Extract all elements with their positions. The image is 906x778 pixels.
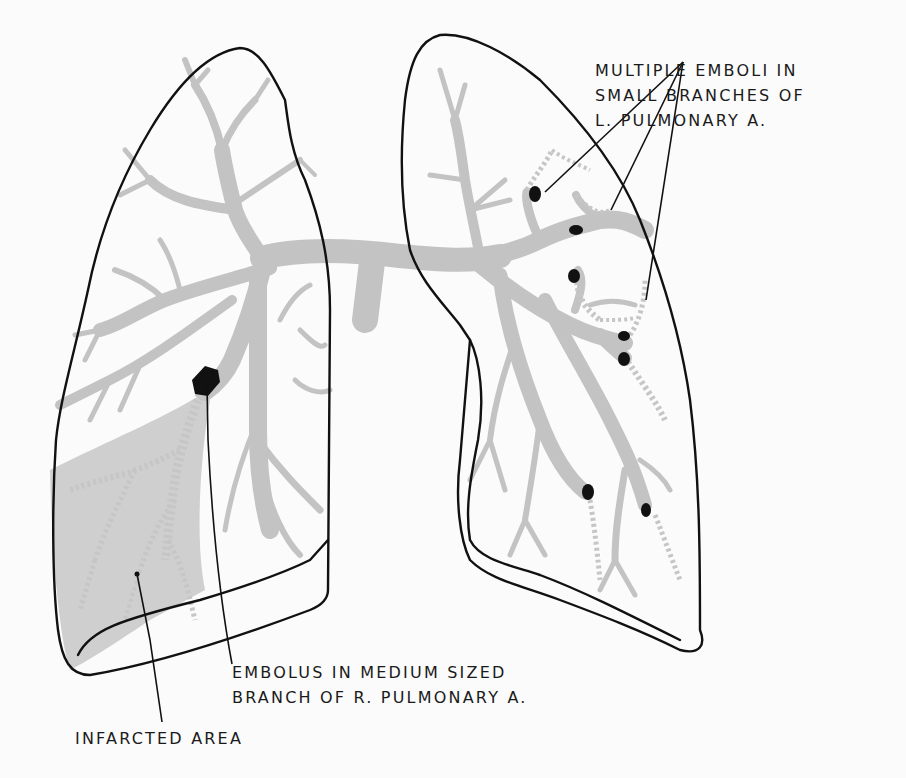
embolus-small-4 <box>618 331 630 341</box>
embolus-small-7 <box>641 503 651 517</box>
label-infarcted-area: INFARCTED AREA <box>75 726 243 751</box>
label-multiple-emboli: MULTIPLE EMBOLI IN SMALL BRANCHES OF L. … <box>595 58 805 133</box>
pulmonary-embolism-diagram: MULTIPLE EMBOLI IN SMALL BRANCHES OF L. … <box>0 0 906 778</box>
embolus-small-3 <box>568 269 580 283</box>
embolus-small-5 <box>618 352 630 366</box>
embolus-small-6 <box>582 484 594 500</box>
label-embolus-medium-branch: EMBOLUS IN MEDIUM SIZED BRANCH OF R. PUL… <box>232 660 528 710</box>
pulmonary-trunk <box>365 262 372 320</box>
main-pulmonary-arteries <box>262 251 500 260</box>
embolus-small-1 <box>529 186 541 202</box>
embolus-small-2 <box>569 225 583 235</box>
